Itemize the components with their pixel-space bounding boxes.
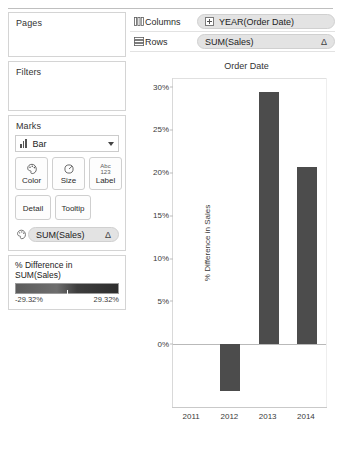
tooltip-button-label: Tooltip <box>61 204 84 213</box>
x-axis-labels: 2011201220132014 <box>130 412 327 426</box>
columns-pill[interactable]: YEAR(Order Date) <box>197 14 335 29</box>
legend-max-value: 29.32% <box>94 295 119 304</box>
marks-buttons-row-2: Detail Tooltip <box>15 195 125 220</box>
size-button-label: Size <box>61 176 77 185</box>
y-axis-tick-label: 25% <box>153 125 169 134</box>
y-axis-tick-mark <box>170 87 173 88</box>
y-axis-tick-mark <box>170 172 173 173</box>
y-axis-title: % Difference in Sales <box>203 205 212 281</box>
bar-2013[interactable] <box>259 92 279 343</box>
marks-buttons-row-1: Color Size Abc 123 Label <box>15 157 125 190</box>
delta-badge-icon: Δ <box>105 230 111 240</box>
bar-2012[interactable] <box>220 344 240 391</box>
size-button[interactable]: Size <box>52 157 85 190</box>
columns-pill-text: YEAR(Order Date) <box>219 17 327 27</box>
filters-shelf-label: Filters <box>9 62 125 77</box>
marks-field-text: SUM(Sales) <box>36 230 105 240</box>
color-legend-gradient[interactable] <box>15 283 119 294</box>
rows-shelf[interactable]: Rows SUM(Sales) Δ <box>130 32 335 52</box>
size-circle-icon <box>63 162 75 175</box>
x-axis-tick-label: 2011 <box>183 412 200 421</box>
color-legend-scale: -29.32% 29.32% <box>15 295 119 304</box>
delta-badge-icon: Δ <box>321 37 327 47</box>
left-shelf-column: Pages Filters Marks Bar Color Size <box>8 12 126 442</box>
y-axis-tick-label: 10% <box>153 254 169 263</box>
color-legend-card: % Difference in SUM(Sales) -29.32% 29.32… <box>8 255 126 310</box>
y-axis-tick-mark <box>170 215 173 216</box>
zero-reference-line <box>173 344 326 345</box>
columns-shelf-label: Columns <box>145 17 197 27</box>
rows-icon <box>132 37 145 46</box>
plot-area[interactable]: % Difference in Sales 0%5%10%15%20%25%30… <box>172 78 327 408</box>
plot-top-border <box>173 78 326 79</box>
color-palette-icon <box>26 162 38 175</box>
y-axis-tick-label: 0% <box>157 339 169 348</box>
marks-field-pill[interactable]: SUM(Sales) Δ <box>28 227 119 242</box>
chart-title: Order Date <box>130 56 335 71</box>
rows-pill[interactable]: SUM(Sales) Δ <box>197 34 335 49</box>
legend-mid-tick <box>67 290 68 294</box>
y-axis-tick-mark <box>170 258 173 259</box>
y-axis-tick-mark <box>170 301 173 302</box>
y-axis-tick-label: 30% <box>153 82 169 91</box>
tooltip-button[interactable]: Tooltip <box>55 195 91 220</box>
mark-type-value: Bar <box>33 139 109 149</box>
x-axis-tick-label: 2013 <box>259 412 277 421</box>
label-button[interactable]: Abc 123 Label <box>89 157 122 190</box>
bar-mark-icon <box>20 139 28 148</box>
y-axis-tick-label: 15% <box>153 211 169 220</box>
pages-shelf[interactable]: Pages <box>8 12 126 57</box>
detail-button-label: Detail <box>23 204 43 213</box>
pages-shelf-label: Pages <box>9 13 125 28</box>
marks-color-field[interactable]: SUM(Sales) Δ <box>15 227 119 242</box>
color-legend-title: % Difference in SUM(Sales) <box>15 260 119 280</box>
mark-type-dropdown[interactable]: Bar <box>15 135 119 152</box>
columns-shelf[interactable]: Columns YEAR(Order Date) <box>130 12 335 32</box>
plus-box-icon[interactable] <box>205 17 214 26</box>
chart-container: Order Date % Difference in Sales 0%5%10%… <box>130 56 335 442</box>
marks-card-label: Marks <box>9 116 125 131</box>
rows-shelf-label: Rows <box>145 37 197 47</box>
legend-min-value: -29.32% <box>15 295 43 304</box>
x-axis-tick-label: 2014 <box>297 412 315 421</box>
columns-icon <box>132 17 145 26</box>
x-axis-line <box>172 407 327 408</box>
filters-shelf[interactable]: Filters <box>8 61 126 111</box>
bar-2014[interactable] <box>297 167 317 344</box>
y-axis-tick-mark <box>170 129 173 130</box>
window-top-rule <box>8 8 333 9</box>
worksheet-area: Columns YEAR(Order Date) Rows SUM(Sales)… <box>130 12 335 442</box>
color-palette-icon <box>15 229 28 240</box>
rows-pill-text: SUM(Sales) <box>205 37 321 47</box>
y-axis-tick-label: 20% <box>153 168 169 177</box>
x-axis-tick-label: 2012 <box>220 412 238 421</box>
abc-123-icon-bottom: 123 <box>100 169 110 175</box>
color-button-label: Color <box>22 176 41 185</box>
marks-card: Marks Bar Color Size A <box>8 115 126 251</box>
detail-button[interactable]: Detail <box>15 195 51 220</box>
label-button-label: Label <box>96 176 116 185</box>
color-button[interactable]: Color <box>15 157 48 190</box>
abc-123-icon: Abc 123 <box>100 162 110 175</box>
chevron-down-icon <box>108 142 114 146</box>
y-axis-tick-label: 5% <box>157 296 169 305</box>
